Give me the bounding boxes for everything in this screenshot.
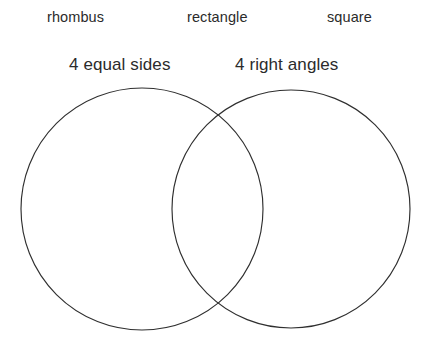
worksheet-canvas: rhombus rectangle square 4 equal sides 4… xyxy=(0,0,436,347)
venn-diagram xyxy=(0,0,436,347)
venn-region-intersection xyxy=(173,115,263,307)
